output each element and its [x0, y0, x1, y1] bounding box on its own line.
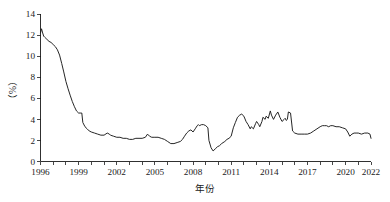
x-tick-label: 2020 [336, 167, 355, 177]
line-chart: 02468101214 1996199920022005200820112014… [0, 0, 390, 202]
x-axis-ticks: 1996199920022005200820112014201720202022 [31, 162, 380, 177]
chart-figure: 02468101214 1996199920022005200820112014… [0, 0, 390, 202]
x-tick-label: 2022 [362, 167, 381, 177]
y-axis-ticks: 02468101214 [26, 9, 41, 167]
data-series-line [41, 29, 372, 151]
y-tick-label: 2 [30, 136, 35, 146]
x-tick-label: 2005 [146, 167, 165, 177]
y-tick-label: 8 [30, 72, 35, 82]
x-axis-label: 年份 [195, 183, 215, 194]
x-tick-label: 1996 [31, 167, 50, 177]
y-axis-label: （%） [7, 76, 18, 104]
y-tick-label: 0 [30, 157, 35, 167]
y-tick-label: 14 [26, 9, 36, 19]
x-tick-label: 1999 [69, 167, 88, 177]
y-tick-label: 12 [26, 30, 36, 40]
y-tick-label: 4 [30, 115, 35, 125]
x-tick-label: 2017 [298, 167, 317, 177]
plot-area: 02468101214 1996199920022005200820112014… [26, 9, 381, 176]
y-tick-label: 10 [26, 51, 36, 61]
x-tick-label: 2014 [260, 167, 279, 177]
x-tick-label: 2011 [222, 167, 240, 177]
y-tick-label: 6 [30, 93, 35, 103]
x-tick-label: 2008 [184, 167, 203, 177]
x-tick-label: 2002 [108, 167, 127, 177]
